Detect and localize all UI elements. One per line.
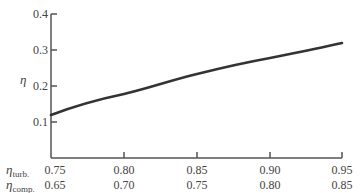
efficiency-chart: 0.1 0.2 0.3 0.4 η ηturb. ηcomp. 0.75 0.8…: [0, 0, 360, 193]
x-tick-label: 0.65: [45, 178, 66, 192]
x-axis-row-labels: ηturb. ηcomp.: [6, 162, 35, 193]
axes: [51, 14, 342, 158]
y-tick-labels: 0.1 0.2 0.3 0.4: [33, 7, 48, 129]
x-tick-label: 0.75: [187, 178, 208, 192]
efficiency-curve: [51, 43, 342, 115]
y-tick-label: 0.4: [33, 7, 48, 21]
x-tick-labels-comp: 0.65 0.70 0.75 0.80 0.85: [45, 178, 353, 192]
x-tick-label: 0.85: [332, 178, 353, 192]
x-tick-label: 0.85: [187, 163, 208, 177]
x-tick-labels-turb: 0.75 0.80 0.85 0.90 0.95: [45, 163, 353, 177]
y-tick-label: 0.1: [33, 115, 48, 129]
y-axis-label: η: [20, 72, 26, 87]
x-tick-label: 0.90: [260, 163, 281, 177]
x-tick-label: 0.80: [114, 163, 135, 177]
x-tick-label: 0.80: [260, 178, 281, 192]
x-tick-label: 0.70: [114, 178, 135, 192]
y-tick-label: 0.3: [33, 43, 48, 57]
x-tick-label: 0.95: [332, 163, 353, 177]
x-row-label-comp: ηcomp.: [6, 177, 35, 193]
x-tick-label: 0.75: [45, 163, 66, 177]
y-tick-label: 0.2: [33, 79, 48, 93]
